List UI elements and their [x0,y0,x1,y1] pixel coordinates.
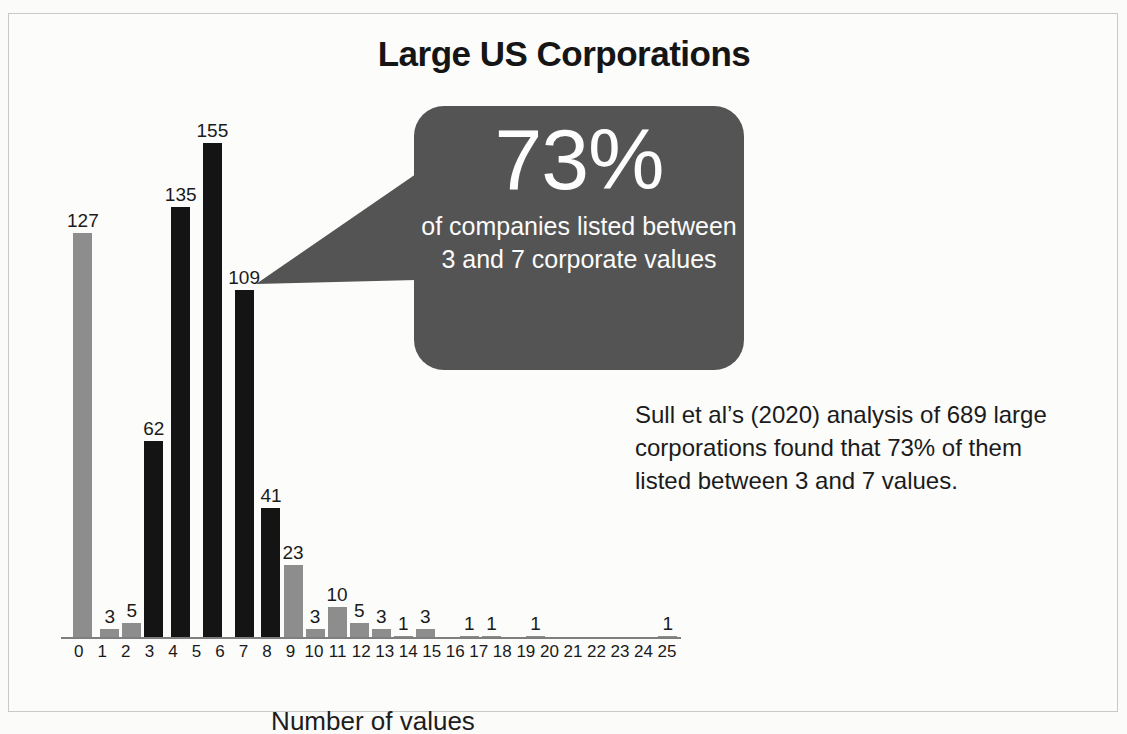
callout-caption: of companies listed between 3 and 7 corp… [414,210,744,276]
bar-group-6: 109 [228,79,260,639]
x-tick-8: 8 [255,642,279,662]
x-tick-21: 21 [561,642,585,662]
x-tick-25: 25 [655,642,679,662]
bar-4 [171,207,190,639]
bar-8 [284,565,303,639]
x-axis-title: Number of values [67,706,679,734]
bar-value-label: 1 [530,614,541,633]
bar-value-label: 3 [104,607,115,626]
bar-group-11: 5 [348,79,370,639]
x-axis-line [61,637,681,639]
x-tick-4: 4 [161,642,185,662]
bar-value-label: 1 [398,614,409,633]
x-tick-13: 13 [373,642,397,662]
x-tick-17: 17 [467,642,491,662]
x-tick-3: 3 [138,642,162,662]
x-axis-tick-labels: 0123456789101112131415161718192021222324… [67,642,679,662]
bar-10 [328,607,347,639]
bar-0 [73,233,92,639]
bar-group-2: 5 [121,79,143,639]
figure-frame: Large US Corporations 127356213515510941… [8,13,1118,712]
bar-value-label: 1 [486,614,497,633]
callout-percentage: 73% [494,114,663,204]
x-tick-11: 11 [326,642,350,662]
x-tick-10: 10 [302,642,326,662]
bar-3 [144,441,163,639]
x-tick-9: 9 [279,642,303,662]
bar-value-label: 3 [420,607,431,626]
x-tick-24: 24 [632,642,656,662]
x-tick-5: 5 [185,642,209,662]
bar-5 [203,143,222,639]
x-tick-20: 20 [538,642,562,662]
x-tick-6: 6 [208,642,232,662]
bar-group-8: 23 [282,79,304,639]
x-tick-23: 23 [608,642,632,662]
bar-group-7: 41 [260,79,282,639]
bar-value-label: 135 [165,185,197,204]
bar-value-label: 127 [67,211,99,230]
x-tick-18: 18 [491,642,515,662]
bar-6 [235,290,254,639]
bar-value-label: 5 [354,601,365,620]
bar-value-label: 155 [197,121,229,140]
bar-value-label: 1 [464,614,475,633]
bar-value-label: 3 [376,607,387,626]
x-tick-0: 0 [67,642,91,662]
bar-group-5: 155 [197,79,229,639]
annotation-text: Sull et al’s (2020) analysis of 689 larg… [635,398,1055,497]
bar-7 [261,508,280,639]
bar-value-label: 5 [126,601,137,620]
x-tick-1: 1 [91,642,115,662]
bar-value-label: 23 [282,543,303,562]
x-tick-19: 19 [514,642,538,662]
bar-group-3: 62 [143,79,165,639]
bar-value-label: 41 [260,486,281,505]
callout-bubble: 73% of companies listed between 3 and 7 … [414,106,744,370]
bar-value-label: 10 [327,585,348,604]
bar-group-13: 1 [392,79,414,639]
x-tick-2: 2 [114,642,138,662]
x-tick-14: 14 [396,642,420,662]
callout-tail-icon [256,168,416,308]
bar-value-label: 3 [310,607,321,626]
x-tick-22: 22 [585,642,609,662]
bar-group-1: 3 [99,79,121,639]
bar-group-12: 3 [370,79,392,639]
callout-box: 73% of companies listed between 3 and 7 … [414,106,744,370]
x-tick-16: 16 [444,642,468,662]
bar-value-label: 62 [143,419,164,438]
bar-group-10: 10 [326,79,348,639]
x-tick-15: 15 [420,642,444,662]
bar-group-9: 3 [304,79,326,639]
bar-group-4: 135 [165,79,197,639]
bar-value-label: 1 [663,614,674,633]
x-tick-12: 12 [349,642,373,662]
bar-group-0: 127 [67,79,99,639]
x-tick-7: 7 [232,642,256,662]
